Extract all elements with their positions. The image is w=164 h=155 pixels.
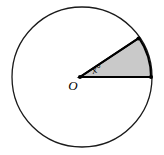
geometry-figure: O x° — [0, 0, 164, 155]
center-point-dot — [78, 75, 82, 79]
center-label-o: O — [68, 78, 78, 93]
arc-endpoint-upper-dot — [137, 37, 141, 41]
circle-sector-diagram: O x° — [0, 0, 164, 155]
arc-endpoint-right-dot — [149, 75, 153, 79]
